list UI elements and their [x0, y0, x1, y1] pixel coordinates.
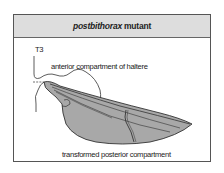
- transformed-wing: [44, 82, 192, 145]
- haltere-wing-diagram: [0, 0, 224, 173]
- label-t3: T3: [35, 45, 43, 54]
- thorax-outline: [35, 82, 44, 112]
- label-anterior-compartment: anterior compartment of haltere: [51, 62, 148, 71]
- label-posterior-compartment: transformed posterior compartment: [62, 150, 171, 159]
